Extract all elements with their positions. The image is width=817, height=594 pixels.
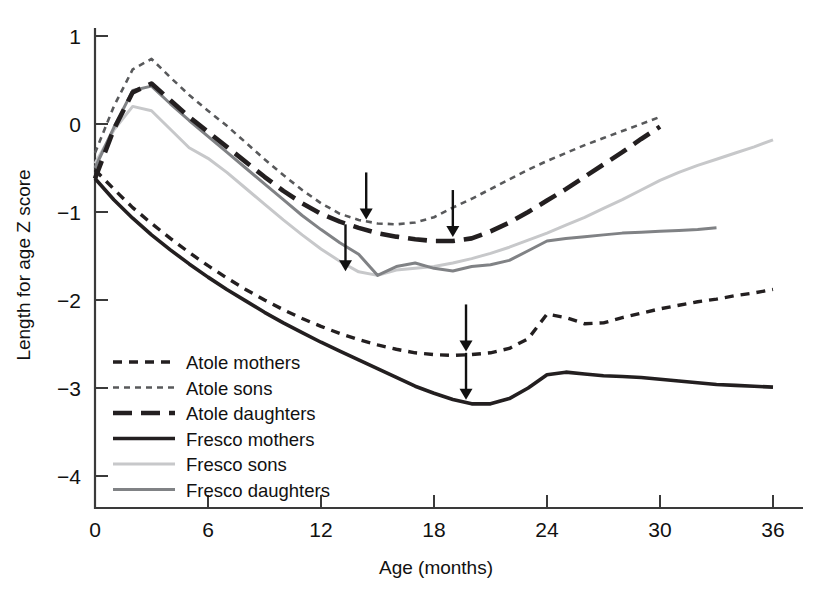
- legend-label: Fresco daughters: [186, 480, 330, 501]
- chart-plot-area: 10−1−2−3−4061218243036 Atole mothersAtol…: [0, 0, 817, 594]
- y-tick-label: −1: [57, 201, 81, 224]
- series-line-fresco-daughters: [95, 86, 717, 275]
- y-tick-label: −3: [57, 377, 81, 400]
- legend-label: Atole sons: [186, 378, 272, 399]
- legend-label: Atole mothers: [186, 352, 300, 373]
- x-tick-label: 24: [535, 518, 559, 541]
- arrow-atole-daughters-nadir: [446, 190, 459, 237]
- legend-item-fresco-mothers: Fresco mothers: [113, 429, 315, 450]
- x-axis-title: Age (months): [379, 557, 493, 578]
- y-tick-label: −4: [57, 465, 81, 488]
- y-tick-label: 0: [69, 113, 81, 136]
- arrow-atole-mothers-nadir: [460, 304, 473, 351]
- series-line-atole-daughters: [95, 84, 660, 242]
- legend-item-atole-daughters: Atole daughters: [113, 403, 316, 424]
- x-tick-label: 18: [422, 518, 445, 541]
- chart-legend: Atole mothersAtole sonsAtole daughtersFr…: [113, 352, 330, 501]
- legend-item-fresco-sons: Fresco sons: [113, 454, 287, 475]
- series-line-atole-mothers: [95, 170, 773, 356]
- x-tick-label: 30: [648, 518, 671, 541]
- x-tick-label: 6: [202, 518, 214, 541]
- x-tick-label: 12: [309, 518, 332, 541]
- arrow-atole-sons-nadir: [360, 172, 373, 219]
- x-tick-label: 0: [89, 518, 101, 541]
- y-tick-label: −2: [57, 289, 81, 312]
- legend-item-atole-sons: Atole sons: [113, 378, 272, 399]
- nadir-arrows: [339, 172, 473, 399]
- legend-label: Fresco mothers: [186, 429, 315, 450]
- chart-figure: 10−1−2−3−4061218243036 Atole mothersAtol…: [0, 0, 817, 594]
- series-line-fresco-sons: [95, 106, 773, 275]
- legend-label: Fresco sons: [186, 454, 287, 475]
- arrow-fresco-mothers-nadir: [460, 353, 473, 400]
- x-tick-label: 36: [761, 518, 784, 541]
- y-tick-label: 1: [69, 25, 81, 48]
- legend-item-atole-mothers: Atole mothers: [113, 352, 300, 373]
- series-line-atole-sons: [95, 59, 660, 224]
- y-axis-title: Length for age Z score: [13, 169, 34, 360]
- legend-item-fresco-daughters: Fresco daughters: [113, 480, 330, 501]
- legend-label: Atole daughters: [186, 403, 316, 424]
